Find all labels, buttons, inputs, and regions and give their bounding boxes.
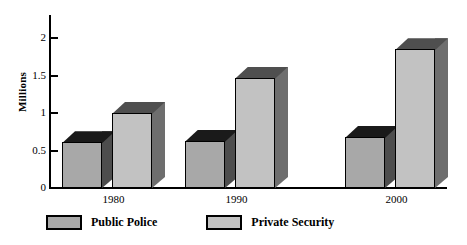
bar-front-face — [112, 113, 152, 188]
bar-side-face — [152, 102, 165, 188]
y-axis-tick — [51, 150, 58, 152]
legend: Public Police Private Security — [46, 215, 334, 230]
legend-entry-public-police: Public Police — [46, 215, 157, 230]
y-axis-title: Millions — [16, 52, 28, 132]
bar-front-face — [62, 142, 102, 188]
bar-side-face — [275, 67, 288, 188]
legend-swatch-private-security — [206, 215, 242, 230]
bar-1980-public-police — [62, 131, 115, 188]
x-axis-label-1980: 1980 — [84, 193, 144, 205]
legend-label-public-police: Public Police — [91, 215, 157, 230]
y-axis-tick-label: 0 — [20, 182, 46, 193]
y-axis-line — [49, 15, 51, 189]
bar-2000-public-police — [345, 126, 398, 188]
y-axis-tick-label: 0.5 — [20, 145, 46, 156]
y-axis-tick — [51, 75, 58, 77]
bar-chart: Millions 00.511.52 198019902000 Public P… — [0, 0, 467, 245]
bar-1990-private-security — [235, 67, 288, 188]
y-axis-tick — [51, 112, 58, 114]
y-axis-tick-label: 2 — [20, 32, 46, 43]
legend-swatch-public-police — [46, 215, 82, 230]
legend-label-private-security: Private Security — [251, 215, 334, 230]
bar-1990-public-police — [185, 130, 238, 188]
x-axis-label-2000: 2000 — [367, 193, 427, 205]
bar-front-face — [345, 137, 385, 188]
x-axis-label-1990: 1990 — [207, 193, 267, 205]
legend-entry-private-security: Private Security — [206, 215, 334, 230]
bar-front-face — [395, 49, 435, 188]
bar-2000-private-security — [395, 38, 448, 188]
bar-front-face — [235, 78, 275, 188]
bar-front-face — [185, 141, 225, 188]
bar-side-face — [435, 38, 448, 188]
y-axis-tick-label: 1 — [20, 107, 46, 118]
y-axis-tick-label: 1.5 — [20, 70, 46, 81]
y-axis-tick — [51, 37, 58, 39]
bar-1980-private-security — [112, 102, 165, 188]
